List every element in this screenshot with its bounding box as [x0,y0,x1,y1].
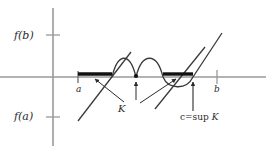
label-f-a: f(a) [14,111,33,122]
label-c-set: K [212,112,219,122]
label-a: a [76,85,81,94]
function-curve [112,33,222,87]
figure-canvas: f(b) f(a) a b K c=sup K [0,0,266,150]
label-c-prefix: c=sup [180,112,212,122]
label-f-b: f(b) [14,30,34,41]
label-b: b [214,85,220,94]
k-leader-right [140,79,176,103]
label-c-sup-k: c=sup K [180,113,218,122]
rising-line-right [155,47,205,109]
figure-svg [0,0,266,150]
k-isolated-point [134,74,138,78]
label-k: K [118,104,125,114]
axes-group [0,8,266,146]
k-leader-left [95,79,124,102]
